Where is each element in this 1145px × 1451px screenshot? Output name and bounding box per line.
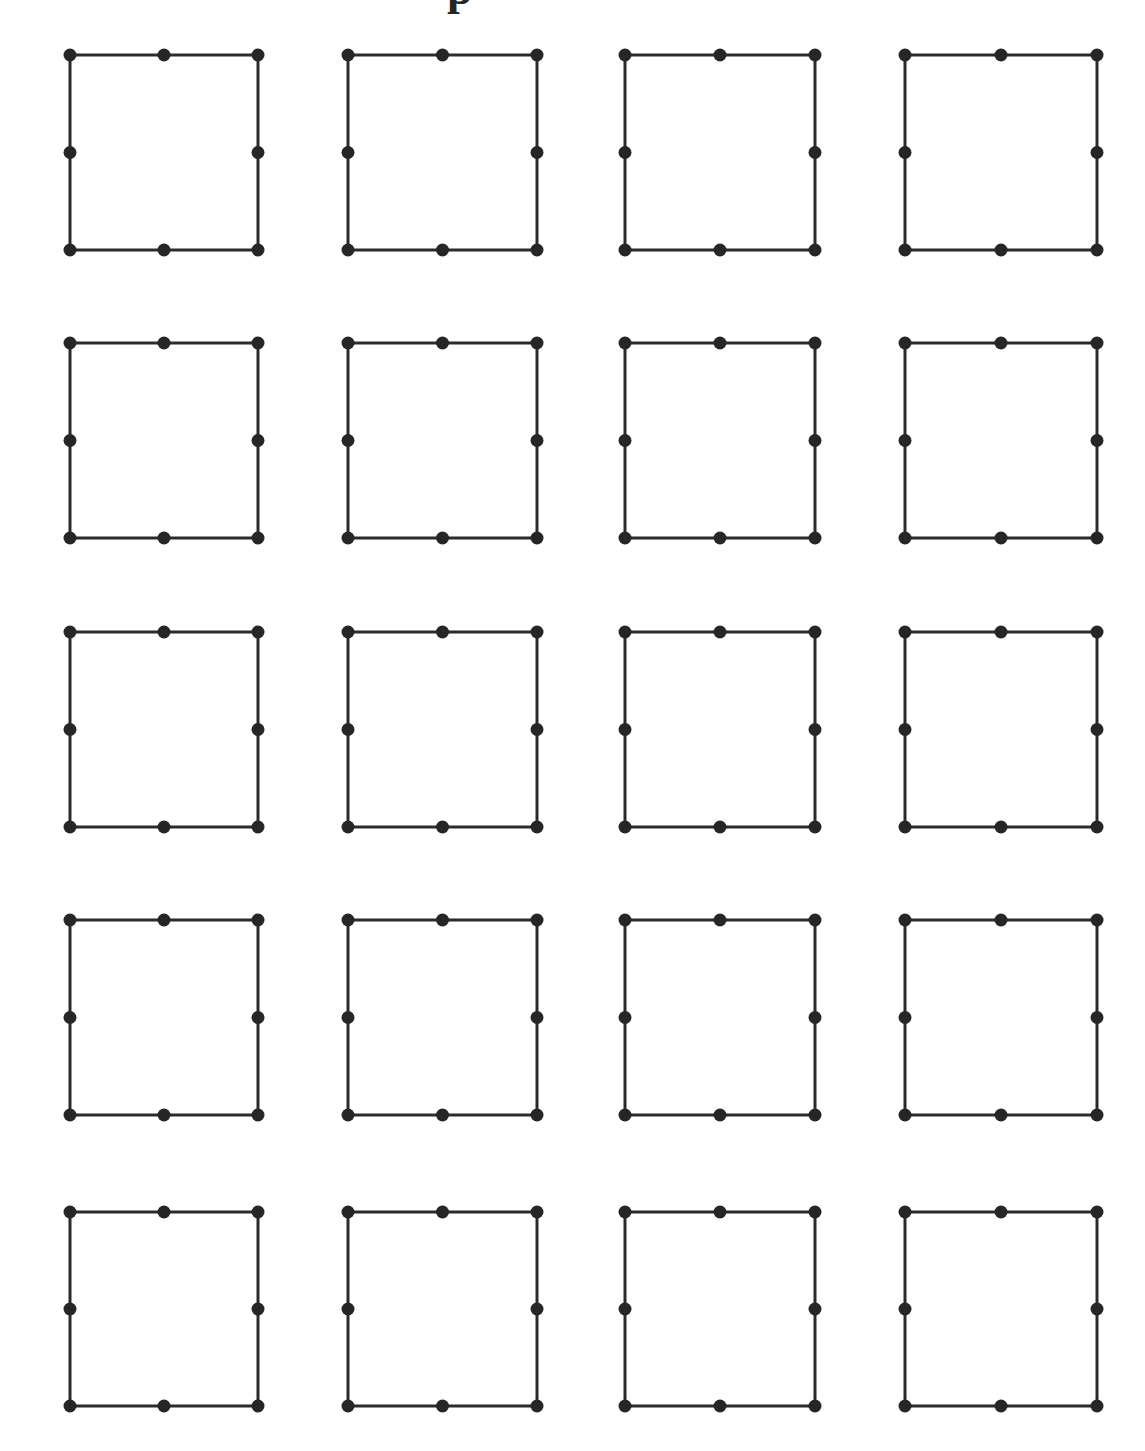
vertex-dot-top-center xyxy=(995,49,1008,62)
vertex-dot-middle-left xyxy=(342,434,355,447)
vertex-dot-middle-left xyxy=(342,1303,355,1316)
vertex-dot-top-right xyxy=(809,337,822,350)
square-outline xyxy=(625,632,815,827)
vertex-dot-bottom-center xyxy=(714,532,727,545)
vertex-dot-bottom-center xyxy=(436,1400,449,1413)
vertex-dot-bottom-left xyxy=(899,1400,912,1413)
vertex-dot-top-right xyxy=(531,626,544,639)
vertex-dot-bottom-center xyxy=(436,532,449,545)
square-cell xyxy=(342,626,544,834)
vertex-dot-middle-left xyxy=(899,434,912,447)
vertex-dot-top-right xyxy=(809,1206,822,1219)
square-outline xyxy=(905,343,1097,538)
square-cell xyxy=(619,1206,822,1413)
square-cell xyxy=(64,626,265,834)
vertex-dot-middle-right xyxy=(1091,723,1104,736)
vertex-dot-top-left xyxy=(619,337,632,350)
vertex-dot-top-left xyxy=(342,49,355,62)
vertex-dot-bottom-right xyxy=(809,1109,822,1122)
square-outline xyxy=(348,55,537,250)
square-outline xyxy=(348,343,537,538)
vertex-dot-middle-right xyxy=(809,434,822,447)
vertex-dot-middle-right xyxy=(1091,1303,1104,1316)
square-cell xyxy=(342,337,544,545)
vertex-dot-top-center xyxy=(158,626,171,639)
vertex-dot-middle-left xyxy=(899,1303,912,1316)
square-outline xyxy=(70,1212,258,1406)
vertex-dot-bottom-left xyxy=(64,1109,77,1122)
vertex-dot-bottom-right xyxy=(252,821,265,834)
vertex-dot-top-left xyxy=(899,337,912,350)
figure-page: p xyxy=(0,0,1145,1451)
vertex-dot-top-left xyxy=(899,49,912,62)
vertex-dot-middle-right xyxy=(531,1011,544,1024)
square-outline xyxy=(905,632,1097,827)
vertex-dot-bottom-right xyxy=(1091,532,1104,545)
vertex-dot-top-left xyxy=(64,914,77,927)
vertex-dot-middle-left xyxy=(64,146,77,159)
vertex-dot-bottom-center xyxy=(436,821,449,834)
vertex-dot-top-center xyxy=(158,914,171,927)
vertex-dot-middle-right xyxy=(252,146,265,159)
square-outline xyxy=(70,343,258,538)
vertex-dot-bottom-right xyxy=(809,821,822,834)
square-outline xyxy=(905,1212,1097,1406)
square-cell xyxy=(619,914,822,1122)
vertex-dot-middle-right xyxy=(252,434,265,447)
vertex-dot-top-right xyxy=(531,49,544,62)
vertex-dot-bottom-right xyxy=(809,1400,822,1413)
square-cell xyxy=(64,337,265,545)
square-outline xyxy=(625,55,815,250)
vertex-dot-bottom-left xyxy=(619,532,632,545)
vertex-dot-top-center xyxy=(158,1206,171,1219)
square-cell xyxy=(342,49,544,257)
vertex-dot-bottom-center xyxy=(995,821,1008,834)
vertex-dot-middle-right xyxy=(252,723,265,736)
vertex-dot-middle-left xyxy=(342,723,355,736)
vertex-dot-middle-right xyxy=(809,723,822,736)
square-cell xyxy=(619,626,822,834)
vertex-dot-bottom-right xyxy=(252,1400,265,1413)
square-outline xyxy=(625,920,815,1115)
square-outline xyxy=(348,920,537,1115)
vertex-dot-bottom-right xyxy=(531,1109,544,1122)
vertex-dot-bottom-left xyxy=(342,1109,355,1122)
vertex-dot-bottom-center xyxy=(158,244,171,257)
vertex-dot-middle-left xyxy=(899,1011,912,1024)
square-outline xyxy=(625,343,815,538)
square-outline xyxy=(70,632,258,827)
vertex-dot-top-right xyxy=(809,626,822,639)
square-cell xyxy=(899,1206,1104,1413)
vertex-dot-middle-left xyxy=(342,1011,355,1024)
vertex-dot-top-right xyxy=(1091,914,1104,927)
vertex-dot-middle-right xyxy=(252,1011,265,1024)
vertex-dot-top-right xyxy=(1091,1206,1104,1219)
vertex-dot-middle-left xyxy=(899,723,912,736)
vertex-dot-top-left xyxy=(342,1206,355,1219)
vertex-dot-bottom-right xyxy=(1091,1109,1104,1122)
vertex-dot-middle-right xyxy=(1091,434,1104,447)
square-outline xyxy=(70,55,258,250)
vertex-dot-bottom-center xyxy=(995,244,1008,257)
vertex-dot-top-left xyxy=(342,626,355,639)
square-cell xyxy=(899,914,1104,1122)
vertex-dot-middle-right xyxy=(531,723,544,736)
vertex-dot-bottom-left xyxy=(899,1109,912,1122)
clipped-glyph: p xyxy=(447,0,475,14)
vertex-dot-bottom-center xyxy=(714,1400,727,1413)
square-cell xyxy=(619,49,822,257)
vertex-dot-top-left xyxy=(64,626,77,639)
vertex-dot-top-right xyxy=(252,626,265,639)
vertex-dot-bottom-right xyxy=(252,1109,265,1122)
vertex-dot-bottom-right xyxy=(1091,821,1104,834)
vertex-dot-top-left xyxy=(619,49,632,62)
vertex-dot-bottom-right xyxy=(531,821,544,834)
vertex-dot-middle-left xyxy=(619,723,632,736)
vertex-dot-bottom-right xyxy=(809,244,822,257)
vertex-dot-bottom-left xyxy=(342,821,355,834)
square-outline xyxy=(905,55,1097,250)
vertex-dot-bottom-right xyxy=(252,244,265,257)
dot-lattice-figure xyxy=(0,0,1145,1451)
vertex-dot-bottom-right xyxy=(809,532,822,545)
vertex-dot-bottom-left xyxy=(342,244,355,257)
